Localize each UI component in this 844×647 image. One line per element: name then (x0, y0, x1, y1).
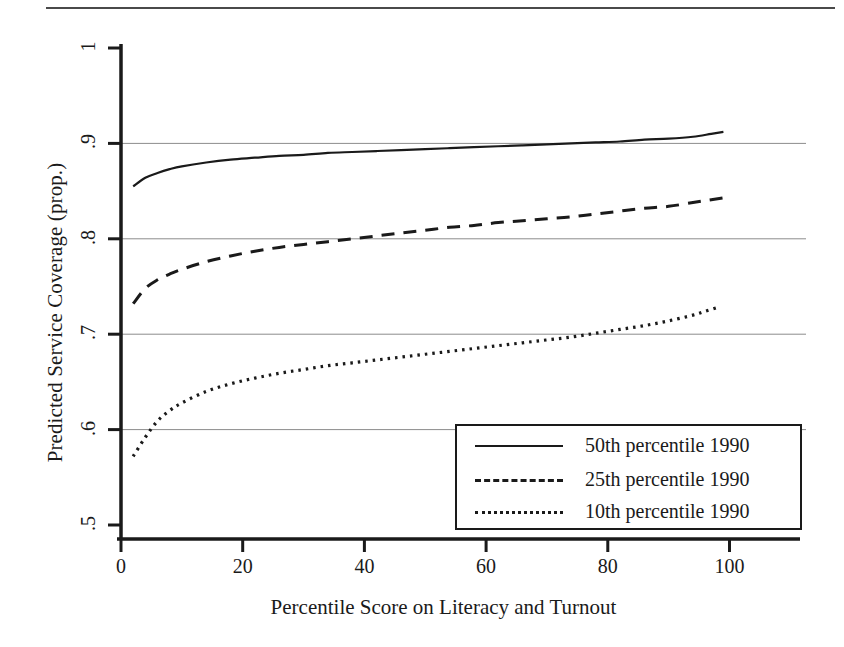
series-line-1 (133, 198, 723, 304)
series-line-0 (133, 132, 723, 186)
y-tick-label: .5 (77, 504, 100, 544)
y-tick-label: .6 (77, 408, 100, 448)
figure-container: Predicted Service Coverage (prop.) Perce… (0, 0, 844, 647)
legend-item-1: 25th percentile 1990 (457, 462, 800, 497)
legend-label-2: 10th percentile 1990 (585, 500, 749, 523)
x-tick-label: 20 (213, 555, 273, 578)
y-tick-label: .9 (77, 122, 100, 162)
legend-label-0: 50th percentile 1990 (585, 434, 749, 457)
x-tick-label: 0 (91, 555, 151, 578)
chart-canvas (0, 0, 844, 647)
legend-line-solid-icon (475, 439, 563, 453)
y-axis-title: Predicted Service Coverage (prop.) (43, 78, 68, 548)
legend-label-1: 25th percentile 1990 (585, 468, 749, 491)
x-tick-label: 40 (334, 555, 394, 578)
legend: 50th percentile 1990 25th percentile 199… (455, 424, 802, 530)
x-tick-label: 60 (456, 555, 516, 578)
x-tick-label: 80 (578, 555, 638, 578)
legend-line-dotted-icon (475, 505, 563, 519)
y-tick-label: .8 (77, 217, 100, 257)
x-axis-title: Percentile Score on Literacy and Turnout (121, 595, 766, 620)
y-tick-label: 1 (77, 27, 100, 67)
legend-item-2: 10th percentile 1990 (457, 494, 800, 529)
y-tick-label: .7 (77, 313, 100, 353)
legend-item-0: 50th percentile 1990 (457, 428, 800, 463)
legend-line-dashed-icon (475, 473, 563, 487)
x-tick-label: 100 (699, 555, 759, 578)
